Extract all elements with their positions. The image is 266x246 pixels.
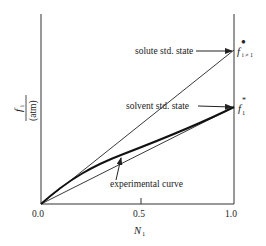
fugacity-diagram: solute std. state solvent std. state exp… xyxy=(0,0,266,246)
annotation-solvent-std-state: solvent std. state xyxy=(126,101,232,111)
annotation-solute-std-state: solute std. state xyxy=(135,46,232,56)
experimental-arrow xyxy=(116,158,121,180)
annotation-experimental-curve: experimental curve xyxy=(110,158,183,189)
x-axis-label-sub: 1 xyxy=(142,230,145,237)
y-axis-numerator-sub: i xyxy=(18,105,25,107)
solvent-fugacity-sup: * xyxy=(242,96,246,105)
solute-fugacity-sub: i ≠ 1 xyxy=(242,52,253,58)
x-tick-label-0: 0.0 xyxy=(32,209,44,219)
solute-std-state-label: solute std. state xyxy=(135,46,193,56)
experimental-curve-label: experimental curve xyxy=(110,179,183,189)
x-axis-label-main: N xyxy=(133,225,142,236)
y-axis-label: f i (atm) xyxy=(12,95,39,121)
solvent-fugacity-sub: 1 xyxy=(242,109,245,116)
solvent-fugacity-label: f 1 * xyxy=(238,96,246,116)
solute-fugacity-sup: ● xyxy=(241,37,246,46)
x-tick-label-1: 0.5 xyxy=(133,209,145,219)
x-axis-label: N 1 xyxy=(133,225,145,237)
solute-fugacity-label: f i ≠ 1 ● xyxy=(237,37,253,58)
solvent-arrow xyxy=(198,106,232,107)
y-axis-denominator: (atm) xyxy=(28,100,39,121)
x-tick-label-2: 1.0 xyxy=(225,209,237,219)
solvent-std-state-label: solvent std. state xyxy=(126,101,189,111)
